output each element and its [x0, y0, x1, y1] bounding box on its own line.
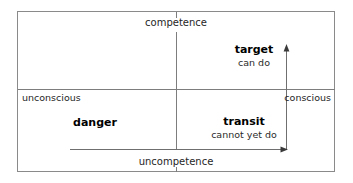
axis-label-uncompetence: uncompetence: [135, 157, 218, 167]
quadrant-danger-title: danger: [58, 117, 132, 130]
vertical-divider-line-middle: [176, 32, 177, 150]
axis-label-unconscious: unconscious: [22, 93, 81, 103]
quadrant-transit-subtitle: cannot yet do: [204, 129, 284, 140]
quadrant-diagram: competence uncompetence unconscious cons…: [0, 0, 353, 183]
quadrant-target: target can do: [226, 44, 282, 68]
axis-label-competence: competence: [141, 18, 211, 28]
quadrant-transit-title: transit: [204, 116, 284, 129]
axis-label-conscious: conscious: [284, 93, 331, 103]
quadrant-target-subtitle: can do: [226, 57, 282, 68]
quadrant-transit: transit cannot yet do: [204, 116, 284, 140]
quadrant-target-title: target: [226, 44, 282, 57]
quadrant-danger: danger: [58, 117, 132, 130]
